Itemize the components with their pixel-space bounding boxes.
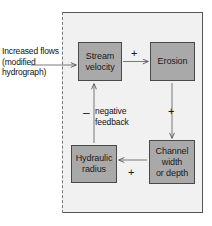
diagram-canvas: Increased flows (modified hydrograph) St… [0, 0, 212, 226]
sign-plus-channel-to-hydraulic: + [128, 167, 134, 178]
node-stream-velocity-line-2: velocity [85, 62, 114, 73]
node-erosion[interactable]: Erosion [150, 42, 195, 81]
node-erosion-line-1: Erosion [158, 56, 188, 67]
negative-feedback-label: negative feedback [95, 106, 147, 127]
node-channel-width-or-depth[interactable]: Channel width or depth [149, 140, 195, 184]
node-stream-velocity-line-1: Stream [85, 51, 114, 62]
node-hydraulic-radius-line-2: radius [76, 164, 113, 175]
node-channel-line-1: Channel [156, 146, 189, 157]
node-channel-line-2: width [156, 157, 189, 168]
sign-plus-erosion-to-channel: + [168, 106, 174, 117]
node-stream-velocity[interactable]: Stream velocity [78, 42, 122, 81]
sign-plus-stream-to-erosion: + [131, 48, 137, 59]
node-hydraulic-radius-line-1: Hydraulic [76, 153, 113, 164]
sign-minus-hydraulic-to-stream: – [83, 108, 90, 119]
node-hydraulic-radius[interactable]: Hydraulic radius [71, 145, 117, 183]
negative-feedback-line-2: feedback [95, 117, 129, 127]
negative-feedback-line-1: negative [95, 106, 126, 116]
node-channel-line-3: or depth [156, 168, 189, 179]
